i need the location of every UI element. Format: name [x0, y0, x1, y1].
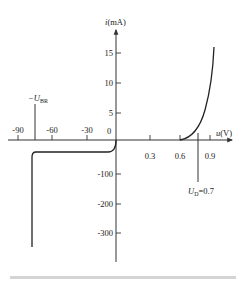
y-tick-label-neg100: -100 — [97, 169, 113, 179]
x-tick-label-neg60: -60 — [46, 125, 57, 135]
origin-label: 0 — [107, 126, 111, 136]
x-tick-label-neg90: -90 — [12, 125, 23, 135]
x-tick-label-0.6: 0.6 — [175, 151, 186, 161]
x-tick-label-neg30: -30 — [81, 125, 92, 135]
y-tick-label-15: 15 — [105, 48, 114, 58]
threshold-voltage-label: UD=0.7 — [188, 186, 214, 197]
y-tick-label-5: 5 — [109, 108, 113, 118]
forward-curve — [180, 47, 214, 140]
y-tick-label-neg300: -300 — [97, 228, 113, 238]
x-tick-label-0.3: 0.3 — [145, 151, 156, 161]
x-tick-label-0.9: 0.9 — [205, 151, 216, 161]
y-tick-label-neg200: -200 — [97, 199, 113, 209]
breakdown-voltage-label: −UBR — [28, 93, 48, 104]
iv-characteristic-diagram: i(mA) u(V) 15 10 5 0 -100 -200 -300 -90 … — [0, 0, 246, 281]
x-axis-label: u(V) — [216, 128, 232, 138]
y-tick-label-10: 10 — [105, 78, 114, 88]
y-axis-label: i(mA) — [105, 17, 126, 27]
footer-divider — [10, 276, 236, 279]
